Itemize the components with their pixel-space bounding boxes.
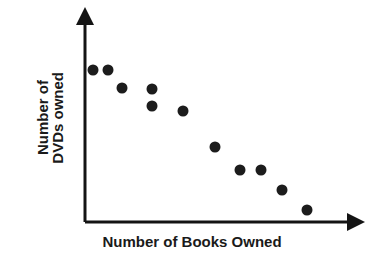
x-axis-label: Number of Books Owned [0, 233, 384, 250]
data-point [147, 84, 158, 95]
data-point [302, 205, 313, 216]
data-point [235, 165, 246, 176]
scatter-plot-figure: Number of DVDs owned Number of Books Own… [0, 0, 384, 262]
y-axis-label-line-1: Number of [35, 80, 50, 155]
data-point [88, 65, 99, 76]
data-point [147, 101, 158, 112]
data-point [178, 106, 189, 117]
y-axis-label: Number of DVDs owned [20, 40, 80, 195]
data-point [103, 65, 114, 76]
data-point [210, 142, 221, 153]
y-axis-label-line-2: DVDs owned [50, 72, 65, 164]
data-point [277, 185, 288, 196]
data-point [117, 83, 128, 94]
data-point [256, 165, 267, 176]
